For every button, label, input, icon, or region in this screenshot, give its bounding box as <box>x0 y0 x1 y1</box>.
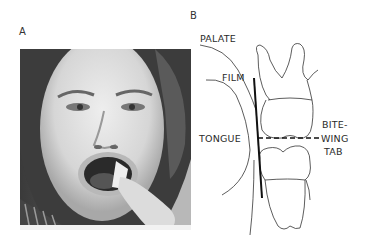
label-film: FILM <box>222 72 245 83</box>
label-tongue: TONGUE <box>198 133 241 144</box>
patient-photo <box>20 49 191 230</box>
label-wing: WING <box>321 133 348 144</box>
panel-a-label: A <box>19 26 26 37</box>
label-tab: TAB <box>323 146 343 157</box>
bitewing-diagram: PALATE FILM TONGUE BITE- WING TAB <box>190 0 368 247</box>
label-bite: BITE- <box>322 119 348 130</box>
label-palate: PALATE <box>200 33 236 44</box>
